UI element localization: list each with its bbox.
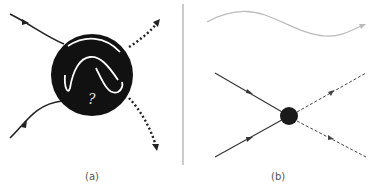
outgoing-dotted-line-top	[129, 22, 158, 47]
incoming-fermion-line-bottom	[215, 116, 289, 157]
diagram-canvas: ?	[0, 0, 375, 189]
arrow-icon	[152, 144, 159, 151]
vertex-dot	[280, 107, 298, 125]
arrow-icon	[328, 135, 334, 140]
arrow-icon	[328, 90, 334, 96]
panel-a-label: (a)	[85, 171, 99, 182]
incoming-particle-line-top	[10, 14, 64, 44]
arrow-icon	[21, 120, 27, 128]
panel-b-label: (b)	[271, 171, 285, 182]
arrow-icon	[246, 137, 253, 142]
outgoing-dotted-line-bottom	[129, 98, 156, 146]
arrow-icon	[246, 89, 253, 94]
question-mark: ?	[88, 91, 96, 107]
arrow-icon	[359, 24, 366, 29]
incoming-particle-line-bottom	[10, 101, 62, 138]
wavy-line	[207, 11, 363, 36]
panel-a: ?	[10, 14, 160, 151]
panel-b	[207, 11, 366, 157]
incoming-fermion-line-top	[215, 73, 289, 116]
